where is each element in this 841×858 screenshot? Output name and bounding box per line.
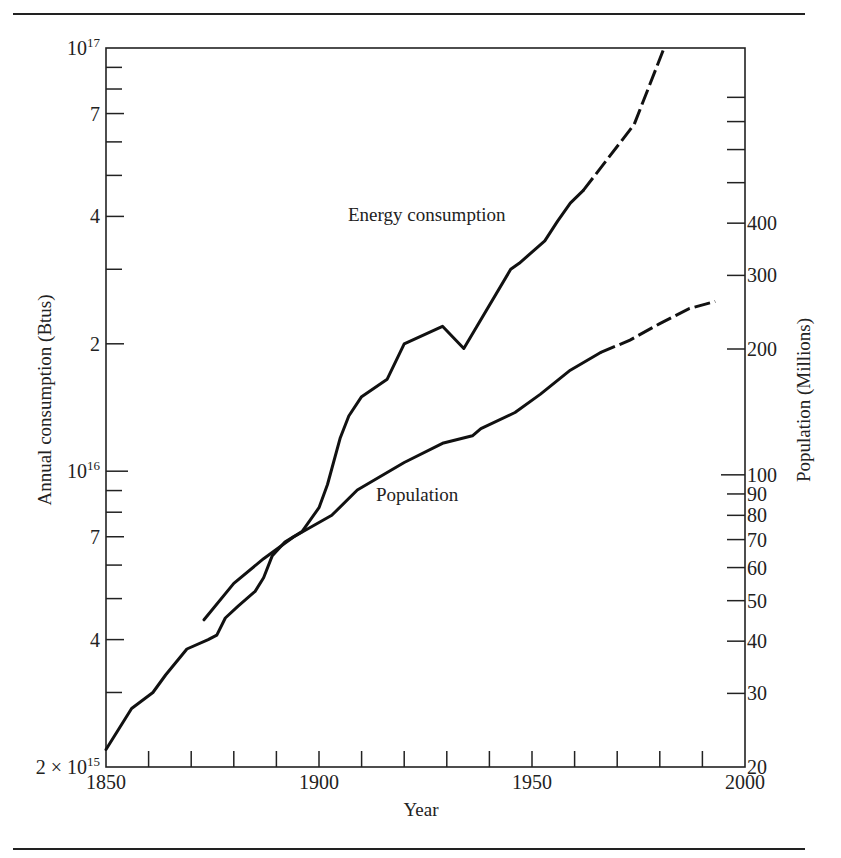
x-tick-label: 1850 [86,771,126,793]
y2-tick-label: 30 [747,682,767,704]
y2-tick-label: 80 [747,504,767,526]
plot-border [106,48,745,767]
series-lines [106,48,715,750]
x-tick-label: 1900 [299,771,339,793]
x-axis: 1850190019502000 [86,751,765,793]
energy-consumption-projection-line [583,48,664,191]
y2-tick-label: 300 [747,264,777,286]
y-tick-label: 4 [90,205,100,227]
y2-tick-label: 50 [747,590,767,612]
y-tick-label: 1017 [67,35,101,59]
energy-consumption-line [106,191,583,750]
x-tick-label: 1950 [512,771,552,793]
plot-frame [106,48,745,767]
chart-canvas: 1850190019502000 10177421016742 × 1015 2… [0,0,841,858]
population-series-label: Population [376,484,459,505]
y2-tick-label: 400 [747,212,777,234]
population-projection-line [600,301,715,352]
energy-series-label: Energy consumption [348,204,506,225]
y-tick-label: 4 [90,629,100,651]
x-axis-title: Year [403,799,439,820]
y2-tick-label: 200 [747,338,777,360]
y-tick-label: 1016 [67,458,101,482]
y-tick-label: 7 [90,526,100,548]
y-axis-right: 2030405060708090100200300400 [721,97,777,778]
y2-tick-label: 100 [747,464,777,486]
y2-tick-label: 70 [747,529,767,551]
y-tick-label: 7 [90,103,100,125]
y-axis-left-title: Annual consumption (Btus) [34,294,56,505]
y-tick-label: 2 [90,333,100,355]
y2-tick-label: 20 [747,756,767,778]
y-axis-right-title: Population (Millions) [793,318,815,482]
y2-tick-label: 40 [747,630,767,652]
y2-tick-label: 60 [747,557,767,579]
y2-tick-label: 90 [747,483,767,505]
